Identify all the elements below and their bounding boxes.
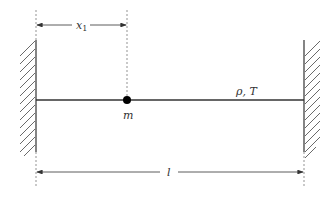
diagram-canvas: x1 l m ρ, T	[0, 0, 336, 198]
string-properties-label: ρ, T	[235, 85, 258, 98]
mass-label: m	[123, 109, 133, 122]
dimension-guides	[36, 10, 304, 188]
length-dimension: l	[37, 166, 303, 179]
left-wall	[20, 40, 36, 156]
right-wall	[304, 40, 320, 158]
length-label: l	[167, 166, 171, 179]
x1-label: x1	[76, 19, 87, 33]
x1-dimension: x1	[37, 19, 126, 33]
point-mass	[123, 96, 131, 104]
